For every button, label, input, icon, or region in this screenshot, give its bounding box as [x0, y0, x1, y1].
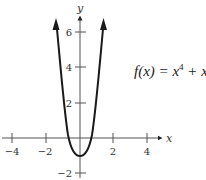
- function-label-mid: + x: [184, 63, 206, 79]
- y-tick-label: 2: [66, 98, 72, 109]
- x-tick-label: −2: [38, 146, 53, 157]
- function-label-prefix: f(x) = x: [134, 63, 179, 79]
- chart-canvas: −4 −2 2 4 6 4 2 −2 x y: [0, 0, 206, 180]
- x-tick-label: −4: [5, 146, 20, 157]
- y-axis-label: y: [76, 2, 84, 15]
- x-tick-label: 2: [110, 146, 116, 157]
- y-tick-label: 6: [66, 27, 72, 38]
- curve-arrow-right-icon: [100, 18, 107, 30]
- x-tick-label: 4: [144, 146, 150, 157]
- y-tick-label: 4: [66, 62, 72, 73]
- function-label: f(x) = x4 + x2 −: [134, 62, 206, 80]
- curve-arrow-left-icon: [53, 18, 60, 30]
- x-axis-label: x: [166, 132, 173, 145]
- y-tick-label: −2: [57, 168, 72, 179]
